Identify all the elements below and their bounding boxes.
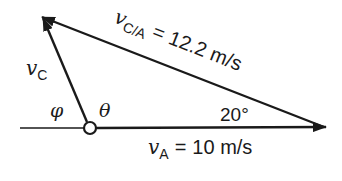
velocity-vector-diagram: vC vC/A=12.2 m/s φ θ 20° vA=10 m/s (0, 0, 342, 181)
label-angle-20: 20° (220, 104, 249, 125)
label-vA: vA=10 m/s (148, 135, 252, 162)
origin-point (84, 122, 96, 134)
vector-vA (96, 127, 326, 128)
label-theta: θ (99, 99, 111, 121)
label-vC: vC (26, 56, 47, 83)
label-phi: φ (50, 99, 64, 121)
label-vCA: vC/A=12.2 m/s (110, 4, 246, 78)
